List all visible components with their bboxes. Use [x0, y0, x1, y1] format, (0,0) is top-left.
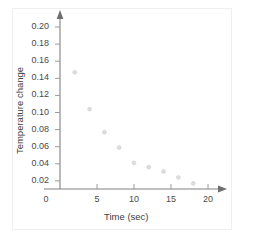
data-point [176, 175, 180, 179]
y-tick-label: 0.20 [19, 21, 49, 31]
x-tick-label: 20 [197, 194, 219, 204]
data-point [147, 165, 151, 169]
data-point [102, 130, 106, 134]
x-tick-label: 10 [123, 194, 145, 204]
data-point [191, 181, 195, 185]
data-point [88, 107, 92, 111]
x-tick-label: 5 [86, 194, 108, 204]
x-axis-arrow-icon [218, 186, 227, 193]
x-tick-label: 0 [35, 194, 57, 204]
y-axis-ticks [55, 27, 60, 181]
data-point [117, 145, 121, 149]
scatter-plot-figure: 0.020.040.060.080.100.120.140.160.180.20… [0, 0, 256, 239]
data-point [162, 169, 166, 173]
y-axis-title: Temperature change [14, 56, 25, 166]
data-point [132, 161, 136, 165]
data-point [73, 70, 77, 74]
y-tick-label: 0.18 [19, 38, 49, 48]
y-axis-arrow-icon [57, 10, 64, 19]
data-point-series [73, 70, 196, 185]
x-axis-title: Time (sec) [104, 211, 149, 222]
y-tick-label: 0.02 [19, 175, 49, 185]
x-tick-label: 15 [160, 194, 182, 204]
